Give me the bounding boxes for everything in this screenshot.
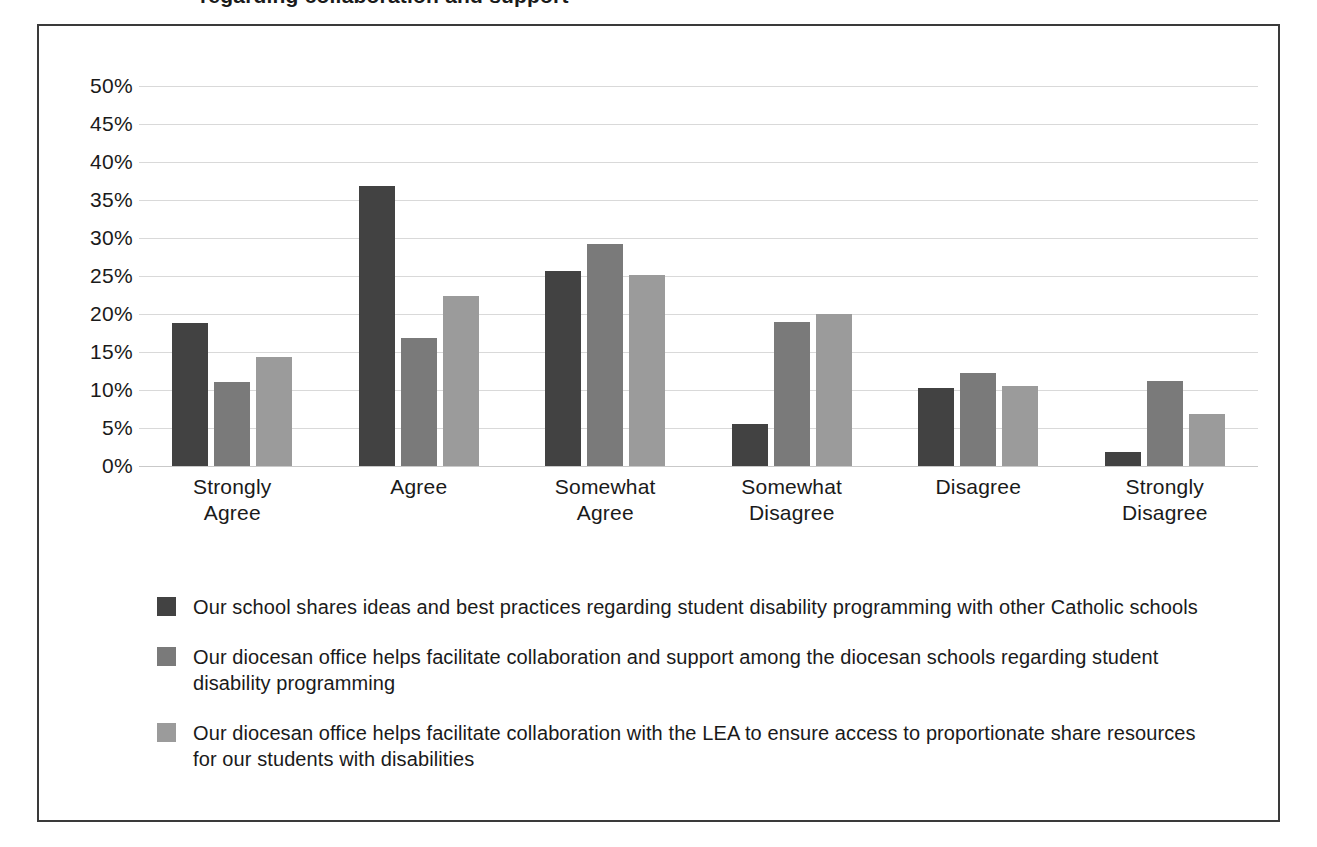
y-axis-tick-label: 45% [90,112,133,136]
chart-frame: 50%45%40%35%30%25%20%15%10%5%0% Strongly… [37,24,1280,822]
bar[interactable] [545,271,581,466]
y-axis-tick-label: 5% [102,416,133,440]
y-axis-tick-label: 50% [90,74,133,98]
chart-title-clipped: regarding collaboration and support [0,0,1317,22]
x-axis-category-label: Disagree [885,474,1072,526]
legend-swatch-icon [157,597,176,616]
bar-group [1072,86,1259,466]
legend-label: Our diocesan office helps facilitate col… [193,644,1223,696]
x-axis-category-label: Agree [326,474,513,526]
x-axis-labels: StronglyAgreeAgreeSomewhatAgreeSomewhatD… [139,474,1258,526]
x-axis-category-label: StronglyDisagree [1072,474,1259,526]
bar-group [512,86,699,466]
bar-group [326,86,513,466]
legend-label: Our diocesan office helps facilitate col… [193,720,1223,772]
bar[interactable] [1105,452,1141,466]
chart-title-text: regarding collaboration and support [200,0,569,8]
bar[interactable] [629,275,665,466]
bar-group [699,86,886,466]
y-axis: 50%45%40%35%30%25%20%15%10%5%0% [57,86,133,466]
bar[interactable] [172,323,208,466]
bar[interactable] [732,424,768,466]
y-axis-tick-label: 15% [90,340,133,364]
y-axis-tick-label: 35% [90,188,133,212]
legend-item[interactable]: Our diocesan office helps facilitate col… [157,720,1240,772]
bar[interactable] [401,338,437,466]
plot-area: 50%45%40%35%30%25%20%15%10%5%0% Strongly… [39,26,1282,586]
bar[interactable] [214,382,250,466]
legend-swatch-icon [157,647,176,666]
bars-layer [139,86,1258,466]
bar[interactable] [816,314,852,466]
axis-baseline [139,466,1258,467]
bar[interactable] [256,357,292,466]
y-axis-tick-label: 10% [90,378,133,402]
legend-item[interactable]: Our diocesan office helps facilitate col… [157,644,1240,696]
y-axis-tick-label: 30% [90,226,133,250]
x-axis-category-label: SomewhatDisagree [699,474,886,526]
bar[interactable] [1189,414,1225,466]
bar-group [885,86,1072,466]
bar[interactable] [587,244,623,466]
legend-swatch-icon [157,723,176,742]
legend-label: Our school shares ideas and best practic… [193,594,1198,620]
bar[interactable] [774,322,810,466]
y-axis-tick-label: 25% [90,264,133,288]
bar[interactable] [1002,386,1038,466]
chart-legend: Our school shares ideas and best practic… [157,594,1240,796]
chart-figure: regarding collaboration and support 50%4… [0,0,1317,847]
bar[interactable] [1147,381,1183,466]
bar[interactable] [359,186,395,466]
x-axis-category-label: StronglyAgree [139,474,326,526]
bar[interactable] [918,388,954,466]
y-axis-tick-label: 20% [90,302,133,326]
y-axis-tick-label: 0% [102,454,133,478]
bar[interactable] [443,296,479,466]
bar-group [139,86,326,466]
bar[interactable] [960,373,996,466]
x-axis-category-label: SomewhatAgree [512,474,699,526]
y-axis-tick-label: 40% [90,150,133,174]
legend-item[interactable]: Our school shares ideas and best practic… [157,594,1240,620]
